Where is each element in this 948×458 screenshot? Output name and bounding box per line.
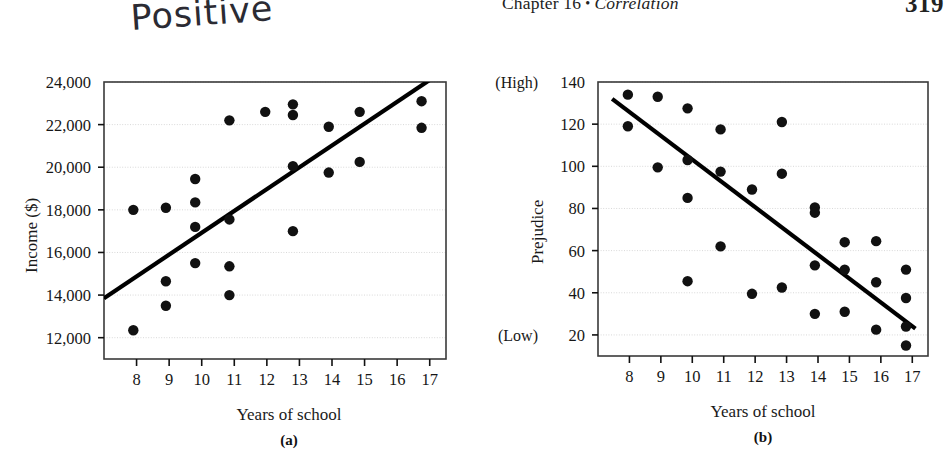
y-axis-tick-label: 16,000 (46, 243, 91, 262)
data-point-group (623, 89, 912, 350)
x-axis-tick-label: 17 (421, 370, 438, 389)
data-point (224, 115, 234, 125)
x-axis-tick-label: 13 (778, 367, 795, 386)
x-axis-tick-label: 13 (291, 370, 308, 389)
data-point (128, 205, 138, 215)
data-point (777, 168, 787, 178)
data-point (840, 264, 850, 274)
panel-b-y-axis-label: Prejudice (528, 200, 548, 264)
panel-a-y-axis-label: Income ($) (22, 197, 42, 272)
y-axis-tick-label: 18,000 (46, 201, 91, 220)
x-axis-tick-label: 14 (324, 370, 341, 389)
y-axis-tick-label: 40 (569, 284, 586, 303)
x-axis-tick-label: 16 (389, 370, 406, 389)
data-point (901, 264, 911, 274)
y-axis-low-label: (Low) (498, 327, 538, 345)
data-point (840, 307, 850, 317)
data-point (416, 123, 426, 133)
y-axis-tick-label: 120 (560, 115, 585, 134)
data-point (161, 301, 171, 311)
x-axis-tick-label: 8 (625, 367, 633, 386)
data-point (260, 107, 270, 117)
x-axis-tick-label: 14 (810, 367, 827, 386)
scatter-panel-income: 12,00014,00016,00018,00020,00022,00024,0… (0, 0, 474, 458)
data-point (901, 340, 911, 350)
y-axis-tick-label: 80 (569, 199, 586, 218)
data-point (354, 157, 364, 167)
data-point (623, 89, 633, 99)
data-point (840, 237, 850, 247)
data-point (715, 241, 725, 251)
data-point (190, 258, 200, 268)
regression-trendline (612, 99, 915, 329)
data-point (190, 174, 200, 184)
y-axis-tick-label: 20,000 (46, 158, 91, 177)
data-point (224, 214, 234, 224)
x-axis-tick-label: 8 (132, 370, 140, 389)
x-axis-tick-label: 9 (657, 367, 665, 386)
data-point (901, 293, 911, 303)
data-point-group (128, 96, 427, 335)
x-axis-tick-label: 11 (716, 367, 732, 386)
regression-trendline (104, 76, 436, 299)
x-axis-tick-label: 15 (356, 370, 373, 389)
data-point (128, 325, 138, 335)
panel-a-x-axis-label: Years of school (0, 405, 474, 425)
data-point (810, 260, 820, 270)
x-axis-tick-label: 10 (684, 367, 701, 386)
scatter-panel-prejudice: 20406080100120140(High)(Low)891011121314… (474, 0, 948, 458)
data-point (190, 197, 200, 207)
y-axis-tick-label: 24,000 (46, 73, 91, 92)
data-point (288, 226, 298, 236)
y-axis-tick-label: 22,000 (46, 116, 91, 135)
data-point (161, 276, 171, 286)
data-point (682, 193, 692, 203)
data-point (224, 261, 234, 271)
panel-b-x-axis-label: Years of school (474, 402, 948, 422)
panel-a-caption: (a) (0, 432, 474, 449)
x-axis-tick-label: 16 (873, 367, 890, 386)
data-point (161, 203, 171, 213)
data-point (682, 103, 692, 113)
plot-frame (104, 82, 446, 359)
data-point (190, 222, 200, 232)
data-point (747, 289, 757, 299)
data-point (810, 207, 820, 217)
x-axis-tick-label: 12 (747, 367, 764, 386)
y-axis-tick-label: 140 (560, 73, 585, 92)
data-point (871, 324, 881, 334)
data-point (682, 155, 692, 165)
data-point (324, 122, 334, 132)
data-point (682, 276, 692, 286)
data-point (354, 107, 364, 117)
x-axis-tick-label: 17 (904, 367, 921, 386)
data-point (715, 124, 725, 134)
data-point (715, 166, 725, 176)
data-point (777, 117, 787, 127)
x-axis-tick-label: 12 (259, 370, 276, 389)
y-axis-high-label: (High) (495, 74, 538, 92)
y-axis-tick-label: 100 (560, 157, 585, 176)
y-axis-tick-label: 60 (569, 242, 586, 261)
data-point (810, 309, 820, 319)
data-point (901, 321, 911, 331)
data-point (324, 167, 334, 177)
x-axis-tick-label: 11 (226, 370, 242, 389)
panel-a-plot: 12,00014,00016,00018,00020,00022,00024,0… (0, 0, 474, 458)
x-axis-tick-label: 9 (165, 370, 173, 389)
data-point (288, 99, 298, 109)
x-axis-tick-label: 15 (841, 367, 858, 386)
figure-page: Chapter 16•Correlation 319 Positive 12,0… (0, 0, 948, 458)
y-axis-tick-label: 14,000 (46, 286, 91, 305)
data-point (623, 121, 633, 131)
data-point (288, 110, 298, 120)
data-point (871, 277, 881, 287)
data-point (224, 290, 234, 300)
y-axis-tick-label: 20 (569, 326, 586, 345)
data-point (777, 282, 787, 292)
data-point (871, 236, 881, 246)
data-point (653, 92, 663, 102)
data-point (653, 162, 663, 172)
data-point (288, 161, 298, 171)
x-axis-tick-label: 10 (193, 370, 210, 389)
